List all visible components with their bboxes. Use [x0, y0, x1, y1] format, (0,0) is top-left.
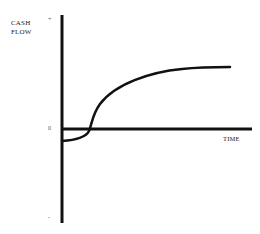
chart-plot [0, 0, 260, 234]
